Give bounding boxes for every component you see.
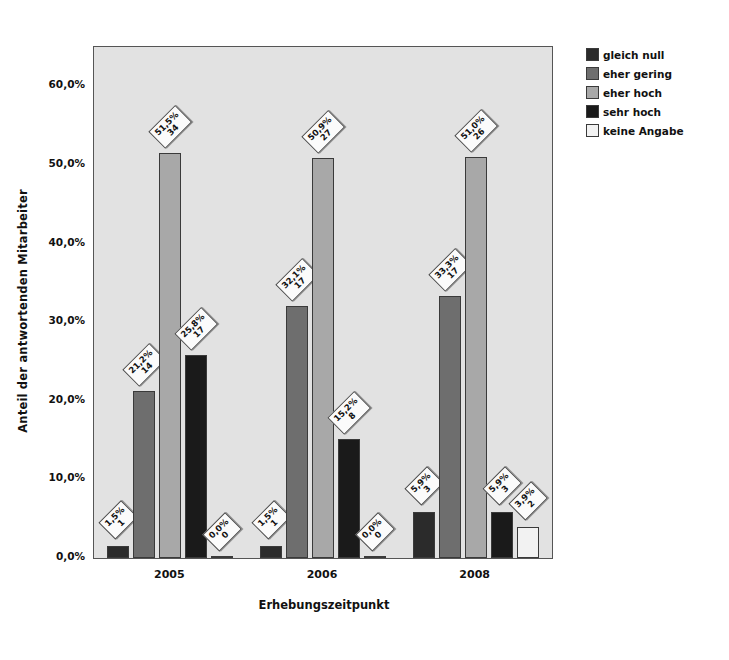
plot-inner: 1,5%121,2%1451,5%3425,8%170,0%01,5%132,1…: [94, 47, 552, 558]
legend-item-label: eher gering: [603, 68, 672, 80]
legend-item-2[interactable]: eher hoch: [586, 85, 726, 100]
bar-2006-0: [260, 546, 282, 558]
bar-2008-4: [517, 527, 539, 558]
legend-item-label: gleich null: [603, 49, 664, 61]
legend-item-3[interactable]: sehr hoch: [586, 104, 726, 119]
bar-2008-0: [413, 512, 435, 558]
bar-2006-3: [338, 439, 360, 558]
bar-2005-3: [185, 355, 207, 558]
legend-item-4[interactable]: keine Angabe: [586, 123, 726, 138]
y-axis-tick-label: 60,0%: [49, 78, 85, 90]
y-axis: Anteil der antwortenden Mitarbeiter 0,0%…: [0, 46, 93, 559]
legend-swatch-icon: [586, 67, 599, 80]
y-axis-title: Anteil der antwortenden Mitarbeiter: [16, 76, 30, 546]
bar-value-label: 0,0%0: [355, 512, 394, 551]
x-axis-category-2006: 2006: [282, 568, 362, 581]
legend-item-label: eher hoch: [603, 87, 662, 99]
bar-2008-1: [439, 296, 461, 558]
legend-swatch-icon: [586, 124, 599, 137]
y-axis-tick-label: 10,0%: [49, 471, 85, 483]
bar-value-label: 1,5%1: [251, 501, 290, 540]
x-axis-title: Erhebungszeitpunkt: [93, 598, 555, 612]
bar-2005-0: [107, 546, 129, 558]
legend-item-label: sehr hoch: [603, 106, 661, 118]
legend-item-1[interactable]: eher gering: [586, 66, 726, 81]
bar-value-label: 5,9%3: [404, 466, 443, 505]
bar-value-label: 51,0%26: [454, 109, 497, 152]
bar-2005-1: [133, 391, 155, 558]
legend-swatch-icon: [586, 105, 599, 118]
bar-2006-4: [364, 556, 386, 558]
bar-value-label: 51,5%34: [149, 105, 192, 148]
legend-swatch-icon: [586, 86, 599, 99]
bar-2008-2: [465, 157, 487, 558]
bar-value-label: 1,5%1: [99, 501, 138, 540]
x-axis-category-2008: 2008: [435, 568, 515, 581]
chart-legend: gleich nulleher geringeher hochsehr hoch…: [586, 47, 726, 142]
plot-area: 1,5%121,2%1451,5%3425,8%170,0%01,5%132,1…: [93, 46, 553, 559]
y-axis-tick-label: 50,0%: [49, 157, 85, 169]
bar-2005-2: [159, 153, 181, 558]
y-axis-tick-label: 30,0%: [49, 314, 85, 326]
bar-2005-4: [211, 556, 233, 558]
legend-item-label: keine Angabe: [603, 125, 684, 137]
y-axis-tick-label: 0,0%: [56, 550, 85, 562]
bar-value-label: 50,9%27: [301, 110, 344, 153]
y-axis-tick-label: 20,0%: [49, 393, 85, 405]
bar-value-label: 0,0%0: [203, 512, 242, 551]
legend-item-0[interactable]: gleich null: [586, 47, 726, 62]
x-axis-category-2005: 2005: [129, 568, 209, 581]
bar-2008-3: [491, 512, 513, 558]
y-axis-tick-label: 40,0%: [49, 236, 85, 248]
bar-2006-2: [312, 158, 334, 558]
bar-2006-1: [286, 306, 308, 558]
legend-swatch-icon: [586, 48, 599, 61]
bar-chart: Anteil der antwortenden Mitarbeiter 0,0%…: [0, 0, 729, 660]
